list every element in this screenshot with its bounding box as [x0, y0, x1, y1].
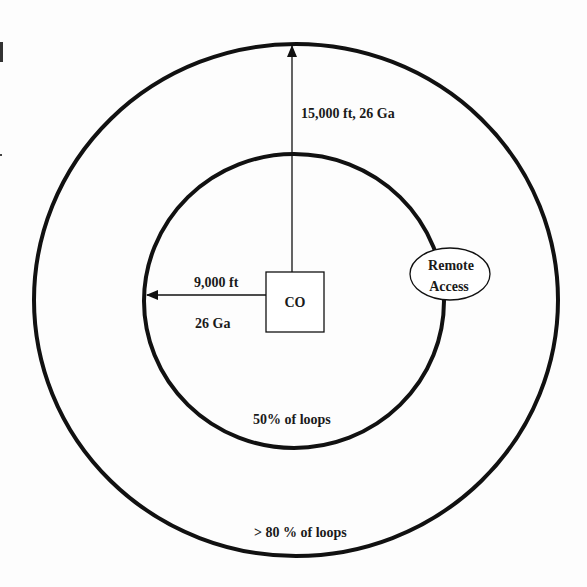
- remote-access-label-line1: Remote: [428, 258, 474, 273]
- edge-mark: [0, 42, 3, 62]
- inner-radius-distance-label: 9,000 ft: [194, 275, 239, 290]
- outer-coverage-label: > 80 % of loops: [254, 525, 347, 540]
- outer-radius-label: 15,000 ft, 26 Ga: [301, 106, 395, 121]
- loop-coverage-diagram: CO Remote Access 15,000 ft, 26 Ga 9,000 …: [0, 0, 587, 587]
- co-node-label: CO: [285, 295, 306, 310]
- inner-coverage-label: 50% of loops: [253, 412, 331, 427]
- edge-dot: [0, 154, 2, 156]
- diagram-svg: CO Remote Access 15,000 ft, 26 Ga 9,000 …: [0, 0, 587, 587]
- remote-access-label-line2: Access: [429, 279, 469, 294]
- inner-radius-gauge-label: 26 Ga: [195, 316, 230, 331]
